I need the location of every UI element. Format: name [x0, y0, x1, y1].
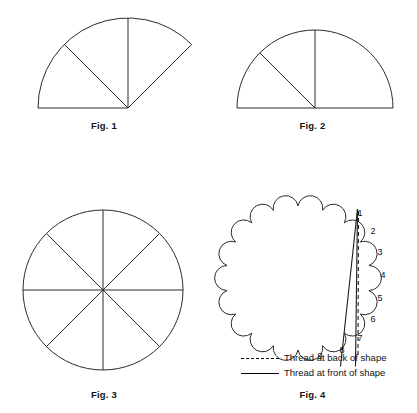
- scallop-number-3: 3: [377, 247, 382, 257]
- fig2-drawing: [208, 0, 417, 120]
- legend-label-back: Thread at back of shape: [284, 352, 386, 363]
- fig4-thread-front-edge-left: [341, 209, 358, 367]
- figure-caption-fig2: Fig. 2: [208, 120, 417, 131]
- fig1-fold-line-1: [64, 44, 128, 108]
- figure-panel-fig1: Fig. 1: [0, 0, 208, 140]
- scallop-number-1: 1: [357, 208, 362, 218]
- scallop-number-7: 7: [357, 333, 362, 343]
- solid-line-icon: [241, 368, 279, 378]
- scallop-number-4: 4: [380, 270, 385, 280]
- scallop-number-6: 6: [370, 314, 375, 324]
- fig3-drawing: [0, 170, 208, 389]
- figure-panel-fig2: Fig. 2: [208, 0, 417, 140]
- fig1-drawing: [0, 0, 208, 120]
- legend-row-back: Thread at back of shape: [241, 350, 417, 365]
- dashed-line-icon: [241, 353, 279, 363]
- figure-caption-fig4: Fig. 4: [208, 389, 417, 400]
- legend-row-front: Thread at front of shape: [241, 365, 417, 380]
- figure-caption-fig1: Fig. 1: [0, 120, 208, 131]
- fig2-fold-line-diagonal: [260, 53, 315, 108]
- figure-caption-fig3: Fig. 3: [0, 389, 208, 400]
- scallop-number-2: 2: [370, 226, 375, 236]
- diagram-sheet: Fig. 1 Fig. 2 Fig. 3: [0, 0, 417, 413]
- scallop-number-5: 5: [377, 293, 382, 303]
- legend-label-front: Thread at front of shape: [284, 367, 385, 378]
- thread-legend: Thread at back of shape Thread at front …: [241, 350, 417, 380]
- figure-panel-fig4: 1 2 3 4 5 6 7 8 9 Thread at back of shap…: [208, 170, 417, 413]
- figure-panel-fig3: Fig. 3: [0, 170, 208, 413]
